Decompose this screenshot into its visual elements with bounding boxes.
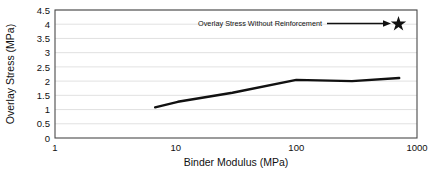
x-tick-10: 10 [170, 142, 181, 153]
x-tick-1: 1 [52, 142, 57, 153]
y-tick-2-5: 2.5 [37, 62, 50, 73]
chart-figure: 4.5 4 3.5 3 2.5 2 1.5 1 0.5 0 1 10 100 1… [0, 0, 436, 170]
y-tick-2: 2 [45, 76, 50, 87]
x-tick-labels: 1 10 100 1000 [52, 142, 427, 153]
y-tick-1: 1 [45, 104, 50, 115]
x-axis-title: Binder Modulus (MPa) [184, 156, 288, 168]
plot-area-background [55, 10, 417, 138]
x-tick-100: 100 [288, 142, 304, 153]
y-tick-0-5: 0.5 [37, 118, 50, 129]
y-axis-title: Overlay Stress (MPa) [4, 24, 16, 124]
chart-canvas: 4.5 4 3.5 3 2.5 2 1.5 1 0.5 0 1 10 100 1… [0, 0, 436, 170]
x-tick-1000: 1000 [406, 142, 427, 153]
y-tick-4: 4 [45, 19, 50, 30]
legend-label-overlay-stress-without-reinforcement: Overlay Stress Without Reinforcement [198, 19, 322, 28]
y-tick-0: 0 [45, 133, 50, 144]
y-tick-labels: 4.5 4 3.5 3 2.5 2 1.5 1 0.5 0 [37, 5, 50, 144]
y-tick-3-5: 3.5 [37, 33, 50, 44]
y-tick-4-5: 4.5 [37, 5, 50, 16]
y-tick-1-5: 1.5 [37, 90, 50, 101]
y-tick-3: 3 [45, 47, 50, 58]
